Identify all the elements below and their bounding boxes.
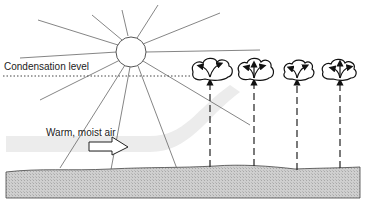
condensation-level-label: Condensation level	[4, 61, 89, 72]
cloud-3	[284, 60, 314, 80]
warm-air-band	[6, 85, 240, 152]
cloud-2	[238, 58, 273, 80]
cloud-1	[192, 58, 232, 80]
warm-moist-air-label: Warm, moist air	[46, 127, 116, 138]
convection-diagram: Condensation level Warm, moist air	[0, 0, 367, 206]
ground-surface	[6, 165, 360, 198]
diagram-canvas	[0, 0, 367, 206]
sun-icon	[116, 37, 146, 67]
cloud-4	[322, 59, 356, 80]
